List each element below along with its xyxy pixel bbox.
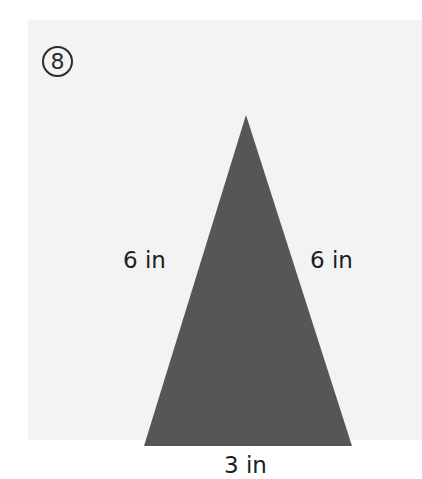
isosceles-triangle-shape xyxy=(144,115,352,446)
left-side-length-label: 6 in xyxy=(123,249,166,272)
right-side-length-label: 6 in xyxy=(310,249,353,272)
base-length-label: 3 in xyxy=(224,454,267,477)
triangle-figure xyxy=(0,0,422,479)
